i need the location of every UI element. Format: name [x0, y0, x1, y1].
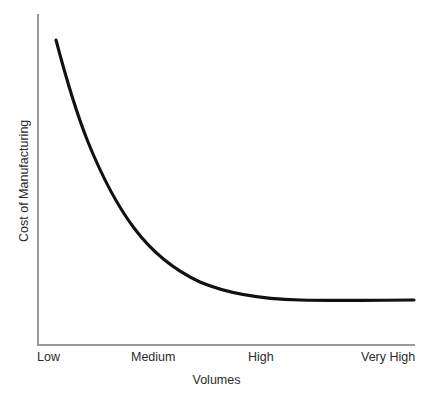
x-tick-label-high: High [248, 351, 274, 364]
x-axis-title: Volumes [0, 374, 433, 387]
cost-curve-line [56, 40, 414, 300]
y-axis-title: Cost of Manufacturing [12, 120, 36, 242]
chart-axes-lines [38, 14, 415, 345]
x-tick-label-medium: Medium [131, 351, 175, 364]
chart-plot-area [0, 0, 433, 405]
chart-container: Low Medium High Very High Volumes Cost o… [0, 0, 433, 405]
x-tick-label-low: Low [37, 351, 60, 364]
x-tick-label-very-high: Very High [361, 351, 415, 364]
